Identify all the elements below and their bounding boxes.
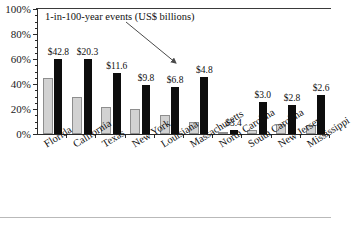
bar-value-label: $3.0 [254,90,271,100]
y-tick-minor [35,97,37,98]
y-tick-minor [35,40,37,41]
bar-value-label: $20.3 [77,47,98,57]
y-tick-major [33,9,37,10]
y-tick-major [33,84,37,85]
bar-gray [72,97,82,135]
y-tick-minor [35,72,37,73]
y-tick-major [33,34,37,35]
bar-value-label: $42.8 [48,47,69,57]
y-tick-minor [35,65,37,66]
annotation-text: 1-in-100-year events (US$ billions) [45,11,195,22]
y-tick-minor [35,15,37,16]
y-tick-label: 80% [11,28,31,40]
bar-value-label: $2.8 [284,93,301,103]
y-tick-label: 20% [11,103,31,115]
bar-black [54,59,62,134]
y-tick-minor [35,53,37,54]
y-tick-label: 0% [16,128,31,140]
y-tick-major [33,59,37,60]
y-tick-major [33,134,37,135]
bar-value-label: $4.8 [196,65,213,75]
y-tick-minor [35,90,37,91]
bar-black [200,77,208,135]
y-tick-minor [35,115,37,116]
bar-value-label: $2.6 [313,83,330,93]
y-tick-minor [35,122,37,123]
bar-black [84,59,92,134]
y-tick-label: 100% [5,3,31,15]
y-tick-minor [35,103,37,104]
y-tick-minor [35,22,37,23]
bar-value-label: $11.6 [106,61,127,71]
figure-bottom-rule [0,217,331,218]
y-tick-minor [35,78,37,79]
y-tick-major [33,109,37,110]
y-tick-minor [35,28,37,29]
bar-black [113,73,121,134]
bar-value-label: $9.8 [138,73,155,83]
y-tick-label: 60% [11,53,31,65]
bar-gray [43,78,53,134]
bar-gray [130,109,140,134]
y-axis-line [37,9,38,135]
bar-value-label: $6.8 [167,75,184,85]
y-tick-minor [35,128,37,129]
y-tick-label: 40% [11,78,31,90]
y-tick-minor [35,47,37,48]
